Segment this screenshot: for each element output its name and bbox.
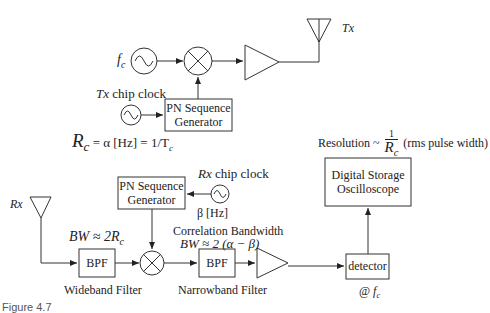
tc-sub: c — [169, 143, 173, 153]
rx-antenna-label: Rx — [10, 198, 23, 210]
wideband-bw-text: BW ≈ 2R — [69, 229, 119, 244]
tx-amplifier-icon — [245, 45, 279, 80]
wideband-filter-caption: Wideband Filter — [64, 284, 142, 296]
detector-sub: c — [376, 291, 380, 300]
rx-pn-generator-label: PN Sequence Generator — [118, 179, 185, 207]
resolution-fraction: 1 Rc — [385, 128, 399, 160]
wideband-bw-label: BW ≈ 2Rc — [69, 230, 124, 247]
rx-mixer-icon — [140, 251, 164, 275]
tx-chip-clock-label: Tx chip clock — [96, 87, 166, 100]
tx-antenna-icon — [307, 19, 331, 42]
dso-line1: Digital Storage — [325, 168, 411, 182]
bpf2-label: BPF — [199, 256, 235, 270]
resolution-prefix: Resolution ~ — [318, 136, 380, 150]
carrier-sub: c — [121, 59, 125, 70]
rx-antenna-icon — [30, 197, 51, 263]
wideband-bw-sub: c — [119, 236, 123, 247]
chip-rate-rest: = α [Hz] = 1/T — [89, 135, 169, 150]
fraction-denominator: Rc — [385, 140, 399, 160]
rx-pn-line1: PN Sequence — [118, 179, 185, 193]
tx-prefix: Tx — [96, 86, 109, 101]
rx-chip-clock-icon — [211, 185, 229, 203]
tx-chip-clock-text: chip clock — [109, 86, 166, 101]
rx-amplifier-icon — [257, 248, 288, 278]
tx-carrier-label: fc — [117, 53, 125, 70]
narrowband-filter-caption: Narrowband Filter — [178, 284, 267, 296]
rx-chip-clock-freq: β [Hz] — [197, 207, 228, 219]
tx-mixer-icon — [184, 47, 212, 75]
tx-antenna-label: Tx — [342, 22, 354, 34]
rx-prefix: Rx — [198, 166, 212, 181]
tx-pn-line1: PN Sequence — [165, 101, 232, 115]
at-sign: @ — [359, 284, 373, 298]
correlation-bandwidth-value: BW ≈ 2 (α − β) — [180, 237, 259, 250]
rx-chip-clock-label: Rx chip clock — [198, 167, 269, 180]
tx-chip-clock-icon — [121, 105, 141, 125]
bpf1-label: BPF — [79, 256, 115, 270]
rx-pn-line2: Generator — [118, 193, 185, 207]
den-r: R — [385, 139, 394, 155]
resolution-formula: Resolution ~ 1 Rc (rms pulse width) — [318, 128, 488, 160]
tx-pn-line2: Generator — [165, 115, 232, 129]
resolution-suffix: (rms pulse width) — [403, 136, 488, 150]
den-sub: c — [394, 147, 399, 158]
figure-caption: Figure 4.7 — [2, 301, 52, 313]
detector-caption: @ fc — [359, 285, 380, 301]
rx-chip-clock-text: chip clock — [212, 166, 269, 181]
detector-label: detector — [346, 259, 389, 273]
tx-carrier-oscillator-icon — [131, 48, 157, 74]
chip-rate-equation: Rc = α [Hz] = 1/Tc — [72, 131, 173, 153]
dso-line2: Oscilloscope — [325, 182, 411, 196]
tx-pn-generator-label: PN Sequence Generator — [165, 101, 232, 129]
rc-symbol: R — [72, 130, 84, 151]
oscilloscope-label: Digital Storage Oscilloscope — [325, 168, 411, 196]
